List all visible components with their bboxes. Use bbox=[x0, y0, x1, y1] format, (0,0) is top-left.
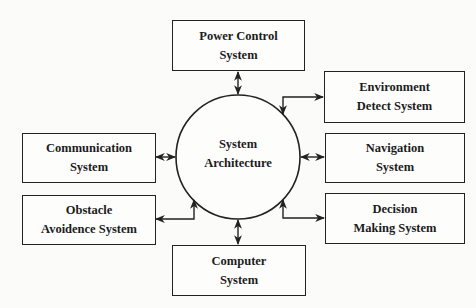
edge-environment-detect bbox=[283, 97, 323, 114]
node-label-line1: Computer bbox=[212, 252, 267, 271]
node-label-line2: Detect System bbox=[357, 97, 432, 116]
edge-obstacle-avoidence bbox=[156, 200, 194, 219]
node-computer: Computer System bbox=[172, 245, 306, 296]
node-label-line1: Environment bbox=[359, 78, 430, 97]
node-power-control: Power Control System bbox=[172, 20, 305, 71]
node-communication: Communication System bbox=[22, 133, 156, 183]
node-obstacle-avoidence: Obstacle Avoidence System bbox=[22, 195, 156, 245]
node-label-line2: Making System bbox=[354, 219, 437, 238]
node-label-line1: Communication bbox=[46, 139, 132, 158]
node-label-line1: Navigation bbox=[366, 139, 424, 158]
node-label-line2: Avoidence System bbox=[41, 220, 137, 239]
node-label-line2: System bbox=[219, 46, 257, 65]
node-label-line2: System bbox=[70, 158, 108, 177]
node-label-line2: System bbox=[220, 271, 258, 290]
node-label-line1: Obstacle bbox=[66, 201, 113, 220]
node-label-line1: Power Control bbox=[199, 27, 277, 46]
node-navigation: Navigation System bbox=[325, 133, 465, 183]
node-decision-making: Decision Making System bbox=[325, 193, 465, 244]
system-architecture-label: System Architecture bbox=[176, 135, 300, 173]
edge-decision-making bbox=[283, 200, 324, 218]
center-line2: Architecture bbox=[176, 154, 300, 173]
node-label-line1: Decision bbox=[372, 200, 417, 219]
node-label-line2: System bbox=[376, 158, 414, 177]
center-line1: System bbox=[176, 135, 300, 154]
node-environment-detect: Environment Detect System bbox=[324, 71, 465, 123]
